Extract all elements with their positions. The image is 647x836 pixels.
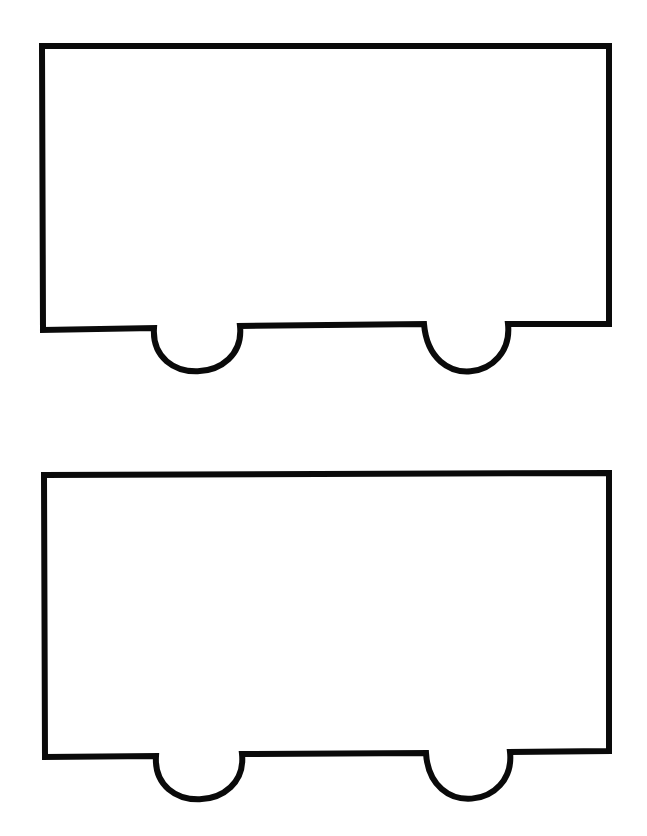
train-car-outline-top bbox=[42, 46, 609, 371]
train-car-outline-bottom bbox=[44, 473, 609, 799]
template-canvas bbox=[0, 0, 647, 836]
